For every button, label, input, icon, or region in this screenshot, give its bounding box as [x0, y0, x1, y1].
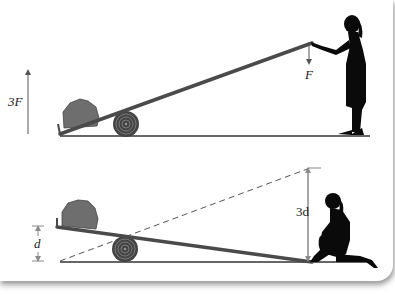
- bottom-panel: d 3d: [32, 168, 378, 268]
- raised-lever-dashed-line: [60, 168, 310, 261]
- small-displacement-label: d: [34, 236, 41, 251]
- lever-diagram: 3F F: [0, 0, 395, 295]
- log-icon-bottom: [112, 236, 138, 262]
- rock-icon-bottom: [62, 200, 98, 229]
- large-displacement-label: 3d: [296, 204, 310, 219]
- lever-bar: [60, 43, 312, 134]
- standing-woman-silhouette-icon: [311, 15, 366, 135]
- force-down-label: F: [304, 67, 314, 82]
- lever-lip: [58, 124, 60, 134]
- top-panel: 3F F: [7, 15, 370, 137]
- lever-bar-bottom: [57, 227, 312, 262]
- force-up-label: 3F: [7, 94, 24, 109]
- kneeling-woman-silhouette-icon: [310, 193, 378, 268]
